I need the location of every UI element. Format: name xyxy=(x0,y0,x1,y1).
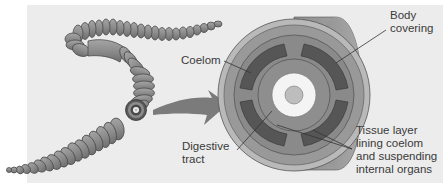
label-tissue-layer: Tissue layer lining coelom and suspendin… xyxy=(356,124,437,176)
label-body-covering: Body covering xyxy=(390,9,433,35)
worm-cut-section xyxy=(126,100,147,121)
label-coelom: Coelom xyxy=(181,54,221,67)
label-digestive-tract: Digestive tract xyxy=(182,140,229,166)
worm-lower-body xyxy=(7,117,126,175)
digestive-lumen xyxy=(285,86,303,104)
cross-section-model xyxy=(218,17,370,171)
magnify-arrow-icon xyxy=(153,90,228,125)
